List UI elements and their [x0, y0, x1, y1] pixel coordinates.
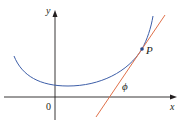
y-axis-arrow-icon: [53, 10, 58, 17]
y-axis-label: y: [46, 6, 50, 16]
x-axis-arrow-icon: [170, 95, 177, 100]
tangent-angle-diagram: y x 0 P ϕ: [0, 0, 183, 124]
x-axis-label: x: [170, 102, 174, 112]
angle-phi-label: ϕ: [122, 81, 128, 92]
curve: [14, 16, 153, 86]
point-p-marker: [140, 47, 144, 51]
origin-label: 0: [46, 102, 51, 112]
tangent-line: [96, 15, 165, 117]
diagram-canvas: [0, 0, 183, 124]
point-p-label: P: [146, 45, 153, 56]
